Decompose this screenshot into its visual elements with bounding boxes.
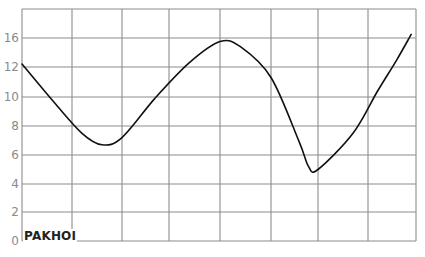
y-tick-label: 12 <box>4 61 19 73</box>
y-tick-label: 4 <box>11 178 19 190</box>
line-chart <box>0 0 425 257</box>
y-tick-label: 16 <box>4 32 19 44</box>
y-tick-label: 10 <box>4 91 19 103</box>
series-label: PAKHOI <box>23 229 77 243</box>
chart-grid <box>22 9 416 241</box>
y-tick-label: 2 <box>11 206 19 218</box>
y-tick-label: 8 <box>11 120 19 132</box>
y-tick-label: 0 <box>11 235 19 247</box>
data-line-pakhoi <box>22 34 411 172</box>
y-tick-label: 6 <box>11 149 19 161</box>
